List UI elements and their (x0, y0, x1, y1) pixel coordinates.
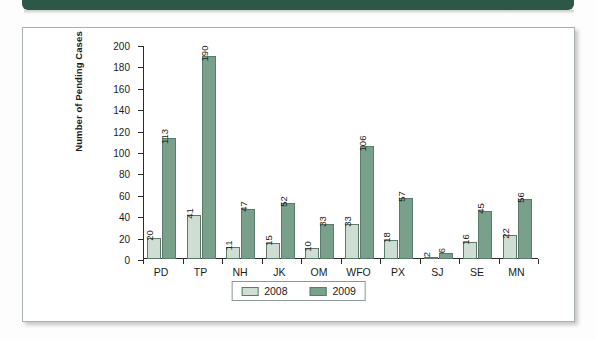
bar-value-label: 56 (515, 192, 525, 203)
chart-legend: 20082009 (231, 281, 366, 301)
bar-wfo-2009[interactable]: 106 (360, 146, 374, 259)
y-axis-tick-label: 140 (113, 105, 130, 116)
chart-page: Number of Pending Cases 0204060801001201… (0, 0, 596, 339)
x-axis-tick (420, 259, 421, 264)
x-axis-label-wfo: WFO (346, 266, 371, 278)
bar-value-label: 20 (145, 230, 155, 241)
bar-pd-2009[interactable]: 113 (162, 138, 176, 259)
x-axis-tick (143, 259, 144, 264)
legend-item-2008[interactable]: 2008 (241, 285, 287, 297)
bar-pd-2008[interactable]: 20 (147, 238, 161, 259)
x-axis-tick (222, 259, 223, 264)
bar-group: 26SJ (420, 45, 460, 259)
y-axis-tick-label: 120 (113, 126, 130, 137)
y-axis-tick-label: 100 (113, 148, 130, 159)
bar-value-label: 33 (342, 216, 352, 227)
bar-value-label: 47 (239, 201, 249, 212)
y-axis-tick-label: 60 (119, 190, 130, 201)
x-axis-label-nh: NH (232, 266, 247, 278)
y-axis-tick-label: 0 (124, 255, 130, 266)
x-axis-tick (538, 259, 539, 264)
bar-group: 33106WFO (341, 45, 381, 259)
bar-group: 1645SE (459, 45, 499, 259)
bar-value-label: 41 (184, 208, 194, 219)
bar-value-label: 106 (357, 136, 367, 152)
x-axis-tick (459, 259, 460, 264)
bar-group: 41190TP (183, 45, 223, 259)
header-banner-bar (22, 0, 574, 10)
x-axis-label-jk: JK (273, 266, 285, 278)
bar-nh-2009[interactable]: 47 (241, 209, 255, 259)
legend-label: 2009 (333, 285, 356, 297)
bar-value-label: 10 (303, 241, 313, 252)
x-axis-label-pd: PD (154, 266, 169, 278)
bar-mn-2009[interactable]: 56 (518, 199, 532, 259)
bar-value-label: 33 (318, 216, 328, 227)
bar-value-label: 6 (436, 248, 446, 253)
plot-area: 020406080100120140160180200 20113PD41190… (143, 46, 538, 259)
bar-group: 1857PX (380, 45, 420, 259)
bar-group: 1033OM (301, 45, 341, 259)
bar-px-2008[interactable]: 18 (384, 240, 398, 259)
bar-group: 1552JK (262, 45, 302, 259)
x-axis-label-om: OM (311, 266, 328, 278)
x-axis-label-se: SE (470, 266, 484, 278)
y-axis-tick-label: 200 (113, 41, 130, 52)
bar-jk-2008[interactable]: 15 (266, 243, 280, 259)
bar-value-label: 113 (160, 129, 170, 144)
bar-value-label: 190 (199, 46, 209, 62)
y-axis-tick-label: 80 (119, 169, 130, 180)
bar-value-label: 11 (224, 240, 234, 250)
bar-value-label: 57 (397, 191, 407, 202)
bar-value-label: 45 (476, 204, 486, 215)
y-axis-tick-label: 180 (113, 62, 130, 73)
bar-mn-2008[interactable]: 22 (503, 235, 517, 259)
legend-swatch-2009 (310, 287, 327, 296)
y-axis-tick-label: 40 (119, 212, 130, 223)
bar-se-2009[interactable]: 45 (478, 211, 492, 259)
bar-value-label: 16 (461, 235, 471, 246)
y-axis-title: Number of Pending Cases (73, 17, 84, 167)
bar-om-2009[interactable]: 33 (320, 224, 334, 259)
x-axis-label-tp: TP (194, 266, 207, 278)
legend-label: 2008 (264, 285, 287, 297)
bar-value-label: 2 (421, 252, 431, 257)
legend-item-2009[interactable]: 2009 (310, 285, 356, 297)
bar-sj-2009[interactable]: 6 (439, 253, 453, 259)
x-axis-label-px: PX (391, 266, 405, 278)
bar-sj-2008[interactable]: 2 (424, 257, 438, 259)
x-axis-tick (380, 259, 381, 264)
x-axis-tick (499, 259, 500, 264)
header-banner-shadow (24, 10, 574, 14)
bar-jk-2009[interactable]: 52 (281, 203, 295, 259)
x-axis-tick (301, 259, 302, 264)
bar-value-label: 15 (263, 236, 273, 247)
bar-value-label: 22 (500, 228, 510, 239)
bar-group: 20113PD (143, 45, 183, 259)
x-axis-label-mn: MN (508, 266, 524, 278)
x-axis-tick (183, 259, 184, 264)
bar-tp-2008[interactable]: 41 (187, 215, 201, 259)
y-axis-tick-label: 20 (119, 233, 130, 244)
bar-se-2008[interactable]: 16 (463, 242, 477, 259)
x-axis-label-sj: SJ (431, 266, 443, 278)
bar-om-2008[interactable]: 10 (305, 248, 319, 259)
bar-px-2009[interactable]: 57 (399, 198, 413, 259)
bar-value-label: 52 (278, 196, 288, 207)
bar-group: 2256MN (499, 45, 539, 259)
bar-value-label: 18 (382, 232, 392, 243)
chart-frame: Number of Pending Cases 0204060801001201… (22, 27, 575, 322)
bar-tp-2009[interactable]: 190 (202, 56, 216, 259)
bar-group: 1147NH (222, 45, 262, 259)
legend-swatch-2008 (241, 287, 258, 296)
bar-wfo-2008[interactable]: 33 (345, 224, 359, 259)
y-axis-tick-label: 160 (113, 83, 130, 94)
bar-nh-2008[interactable]: 11 (226, 247, 240, 259)
x-axis-tick (341, 259, 342, 264)
x-axis-tick (262, 259, 263, 264)
